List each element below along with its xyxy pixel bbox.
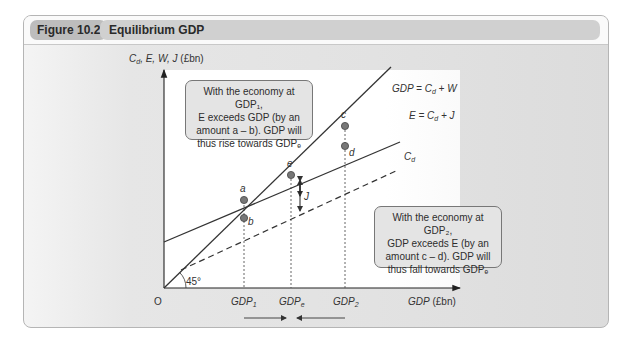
annotation-fall-line2: GDP exceeds E (by an: [381, 237, 495, 250]
origin-label: O: [154, 296, 162, 307]
tick-gdp1: GDP1: [231, 296, 257, 308]
annotation-rise-line1: With the economy at GDP₁,: [192, 85, 306, 111]
annotation-fall-line4: thus fall towards GDPₑ: [381, 263, 495, 276]
label-d: d: [349, 147, 355, 158]
label-b: b: [248, 216, 254, 227]
annotation-fall-line3: amount c – d). GDP will: [381, 250, 495, 263]
annotation-box-rise: With the economy at GDP₁, E exceeds GDP …: [185, 80, 313, 140]
annotation-fall-line1: With the economy at GDP₂,: [381, 211, 495, 237]
point-d: [341, 142, 348, 149]
angle-label: 45°: [186, 276, 201, 287]
label-a: a: [240, 183, 246, 194]
point-b: [240, 214, 247, 221]
x-axis-label: GDP (£bn): [408, 296, 456, 307]
annotation-rise-line4: thus rise towards GDPₑ: [192, 137, 306, 150]
annotation-rise-line3: amount a – b). GDP will: [192, 124, 306, 137]
tick-gdpe: GDPe: [279, 296, 305, 308]
label-c: c: [341, 109, 346, 120]
label-e: e: [287, 158, 293, 169]
y-axis-label: Cd, E, W, J (£bn): [129, 53, 204, 65]
annotation-rise-line2: E exceeds GDP (by an: [192, 111, 306, 124]
point-e: [287, 171, 294, 178]
tick-gdp2: GDP2: [333, 296, 359, 308]
label-gdp-line: GDP = Cd + W: [392, 83, 458, 95]
label-e-line: E = Cd + J: [409, 110, 456, 122]
label-j: J: [303, 191, 310, 202]
chart-svg: a b e c d J GDP = Cd + W E = Cd + J Cd C…: [0, 0, 629, 346]
point-c: [341, 122, 348, 129]
annotation-box-fall: With the economy at GDP₂, GDP exceeds E …: [374, 206, 502, 268]
point-a: [240, 196, 247, 203]
